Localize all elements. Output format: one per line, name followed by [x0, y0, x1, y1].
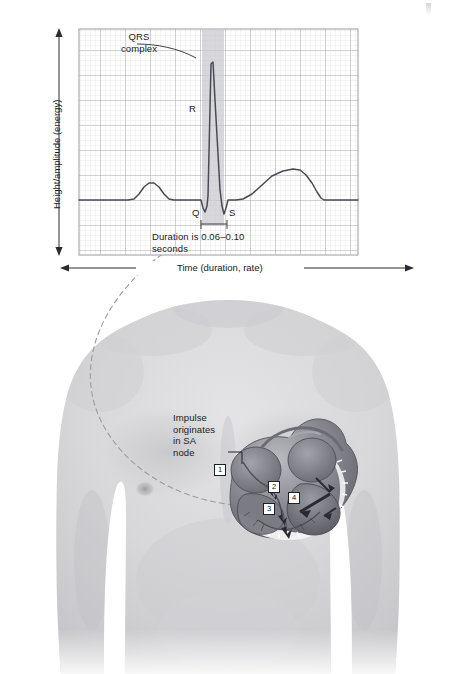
qrs-duration-label: Duration is 0.06–0.10 seconds [152, 231, 244, 254]
s-wave-label: S [229, 207, 235, 218]
y-axis-label: Height/amplitude (energy) [51, 100, 62, 209]
q-wave-label: Q [192, 207, 199, 218]
figure-root: 1 2 3 4 Impulse originates in SA node [0, 0, 456, 674]
qrs-complex-label: QRS complex [121, 31, 157, 54]
ecg-chart-panel [0, 0, 456, 674]
x-axis-label: Time (duration, rate) [177, 262, 263, 273]
scan-artifact [426, 3, 431, 15]
r-wave-label: R [189, 103, 196, 114]
